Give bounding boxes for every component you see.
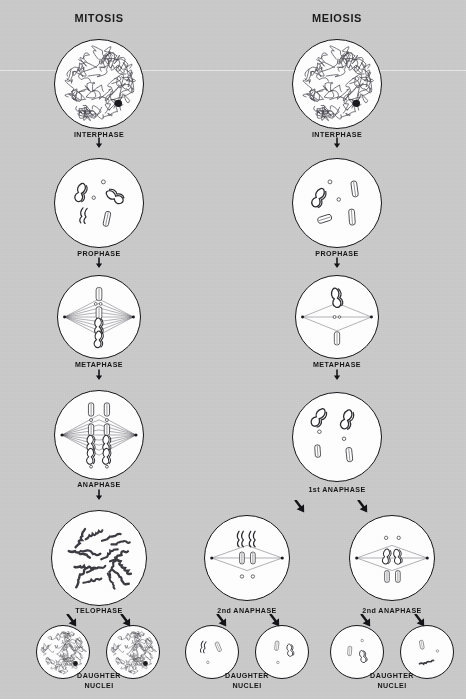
stage-label-me-prophase: PROPHASE [315, 250, 358, 260]
stage-label-m-prophase: PROPHASE [77, 250, 120, 260]
cell-m-metaphase [57, 275, 141, 359]
stage-label-me-interphase: INTERPHASE [312, 131, 362, 141]
daughter-label-line2: NUCLEI [225, 682, 269, 692]
cell-me-daughter-1 [185, 625, 239, 679]
daughter-label-line1: DAUGHTER [370, 672, 414, 682]
stage-label-me-anaphase2-left: 2nd ANAPHASE [217, 607, 277, 617]
stage-label-me-anaphase2-right: 2nd ANAPHASE [362, 607, 422, 617]
column-title-mitosis: MITOSIS [74, 12, 123, 24]
stage-label-m-telophase: TELOPHASE [75, 607, 122, 617]
cell-me-anaphase2-right [349, 515, 435, 601]
daughter-label-line2: NUCLEI [77, 682, 121, 692]
daughter-nuclei-label-dn-meiosis-left: DAUGHTERNUCLEI [225, 672, 269, 691]
flow-arrow-arrow-me-4 [293, 500, 307, 514]
stage-label-me-metaphase: METAPHASE [313, 361, 361, 371]
cell-m-prophase [54, 158, 144, 248]
cell-me-daughter-2 [255, 625, 309, 679]
daughter-nuclei-label-dn-meiosis-right: DAUGHTERNUCLEI [370, 672, 414, 691]
daughter-label-line1: DAUGHTER [225, 672, 269, 682]
stage-label-m-metaphase: METAPHASE [75, 361, 123, 371]
cell-me-prophase [292, 158, 382, 248]
cell-me-interphase [292, 39, 382, 129]
cell-m-anaphase [54, 390, 144, 480]
cell-me-anaphase2-left [204, 515, 290, 601]
cell-me-anaphase1 [292, 392, 382, 482]
stage-label-m-anaphase: ANAPHASE [77, 481, 120, 491]
cell-m-telophase [51, 510, 147, 606]
daughter-nuclei-label-dn-mitosis: DAUGHTERNUCLEI [77, 672, 121, 691]
cell-m-daughter-right [106, 625, 160, 679]
daughter-label-line1: DAUGHTER [77, 672, 121, 682]
cell-me-daughter-3 [330, 625, 384, 679]
cell-me-daughter-4 [400, 625, 454, 679]
cell-m-interphase [54, 39, 144, 129]
cell-me-metaphase [295, 275, 379, 359]
column-title-meiosis: MEIOSIS [312, 12, 362, 24]
stage-label-me-anaphase1: 1st ANAPHASE [308, 486, 365, 496]
flow-arrow-arrow-me-5 [356, 500, 370, 514]
figure-canvas: MITOSISMEIOSISINTERPHASEPROPHASEMETAPHAS… [0, 0, 466, 699]
cell-m-daughter-left [36, 625, 90, 679]
daughter-label-line2: NUCLEI [370, 682, 414, 692]
stage-label-m-interphase: INTERPHASE [74, 131, 124, 141]
